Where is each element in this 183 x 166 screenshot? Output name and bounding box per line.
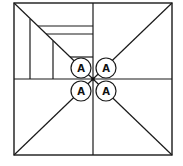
label-a: A	[77, 63, 85, 74]
geometric-diagram: A A A A	[0, 0, 183, 166]
label-circle-top-left: A	[71, 58, 91, 78]
label-circle-bottom-left: A	[71, 81, 91, 101]
label-a: A	[102, 63, 110, 74]
label-circle-top-right: A	[96, 58, 116, 78]
label-a: A	[77, 86, 85, 97]
label-circle-bottom-right: A	[96, 81, 116, 101]
center-point	[91, 77, 95, 81]
label-a: A	[102, 86, 110, 97]
